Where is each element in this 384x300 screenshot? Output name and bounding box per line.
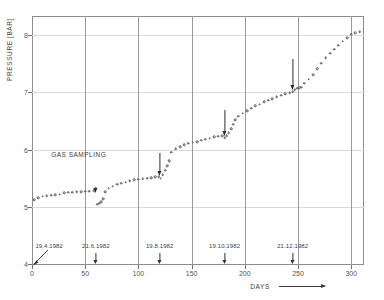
data-point (124, 181, 127, 184)
data-point (230, 128, 233, 131)
data-point (213, 136, 216, 139)
event-date-tick (224, 253, 225, 260)
data-point (237, 115, 240, 118)
event-date-label: 19.8.1982 (146, 243, 174, 249)
y-axis-tick-label: 6 (20, 147, 28, 154)
data-point (316, 68, 319, 71)
data-point (307, 78, 310, 81)
data-point (174, 148, 177, 151)
x-axis-tick-label: 150 (186, 270, 198, 277)
x-axis-tick-label: 300 (345, 270, 357, 277)
data-point (200, 139, 203, 142)
data-point (133, 179, 136, 182)
data-point (168, 160, 171, 163)
y-axis-tick-label: 8 (20, 32, 28, 39)
data-point (187, 142, 190, 145)
data-point (354, 31, 357, 34)
data-point (67, 191, 70, 194)
data-point (241, 112, 244, 115)
data-point (46, 195, 49, 198)
data-point (137, 178, 140, 181)
y-axis-tick-label: 7 (20, 89, 28, 96)
data-point (183, 144, 186, 147)
y-axis-tick-label: 5 (20, 204, 28, 211)
data-point (346, 37, 349, 40)
data-point (104, 191, 107, 194)
data-point (162, 173, 165, 176)
data-point (33, 199, 36, 202)
event-date-tick (95, 253, 96, 260)
y-axis-tick (28, 207, 32, 208)
data-point (116, 183, 119, 186)
data-point (166, 164, 169, 167)
data-point (80, 191, 83, 194)
data-point (102, 197, 105, 200)
data-point (208, 137, 211, 140)
data-point (37, 196, 40, 199)
event-date-label: 21.12.1982 (277, 243, 308, 249)
gas-sampling-annotation: GAS SAMPLING (51, 151, 106, 158)
data-point (196, 140, 199, 143)
event-date-label: 19.4.1982 (35, 243, 63, 249)
gridline-vertical (351, 16, 352, 265)
data-point (129, 180, 132, 183)
data-point (333, 48, 336, 51)
data-point (112, 185, 115, 188)
data-point (75, 191, 78, 194)
data-point (58, 193, 61, 196)
data-point (337, 44, 340, 47)
data-point (280, 94, 283, 97)
data-point (41, 195, 44, 198)
data-point (341, 40, 344, 43)
gas-sampling-arrow (159, 153, 160, 172)
data-point (267, 99, 270, 102)
x-axis-direction-arrow (279, 286, 325, 287)
x-axis-tick-label: 200 (239, 270, 251, 277)
y-axis-tick-label: 4 (20, 261, 28, 268)
data-point (254, 105, 257, 108)
data-point (300, 86, 303, 89)
x-axis-tick-label: 0 (30, 270, 34, 277)
data-point (358, 30, 361, 33)
gridline-horizontal (32, 35, 364, 36)
data-point (107, 187, 110, 190)
data-point (88, 190, 91, 193)
data-point (329, 52, 332, 55)
event-date-label: 21.6.1982 (82, 243, 110, 249)
data-point (350, 33, 353, 36)
gridline-horizontal (32, 92, 364, 93)
x-axis-tick-label: 50 (81, 270, 89, 277)
data-point (100, 200, 103, 203)
chart-figure: PRESSURE [BAR] GAS SAMPLING 45678 050100… (0, 0, 384, 300)
x-axis-label: DAYS (250, 283, 270, 290)
event-date-tick (159, 253, 160, 260)
x-axis-tick-label: 100 (133, 270, 145, 277)
data-point (271, 97, 274, 100)
data-point (84, 190, 87, 193)
data-point (71, 191, 74, 194)
data-point (204, 138, 207, 141)
x-axis-tick (298, 265, 299, 269)
data-point (250, 107, 253, 110)
data-point (146, 177, 149, 180)
data-point (232, 123, 235, 126)
x-axis-tick (351, 265, 352, 269)
data-point (303, 82, 306, 85)
data-point (54, 193, 57, 196)
x-axis-tick (245, 265, 246, 269)
data-point (141, 177, 144, 180)
y-axis-tick (28, 35, 32, 36)
gridline-vertical (298, 16, 299, 265)
gridline-horizontal (32, 207, 364, 208)
plot-area: GAS SAMPLING (32, 16, 364, 265)
data-point (179, 145, 182, 148)
data-point (288, 92, 291, 95)
data-point (50, 194, 53, 197)
data-point (263, 101, 266, 104)
data-point (275, 96, 278, 99)
gridline-vertical (85, 16, 86, 265)
data-point (150, 176, 153, 179)
data-point (246, 109, 249, 112)
data-point (258, 103, 261, 106)
x-axis-tick (32, 265, 33, 269)
